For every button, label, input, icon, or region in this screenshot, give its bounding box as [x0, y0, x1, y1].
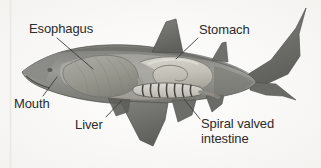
label-liver: Liver	[75, 117, 103, 132]
label-spiral-valved-intestine-line1: Spiral valved	[201, 116, 274, 131]
leader-line-liver	[106, 100, 122, 117]
leader-line-mouth	[43, 77, 57, 96]
label-mouth: Mouth	[14, 96, 50, 111]
leader-line-spiral-valved-intestine	[184, 99, 200, 119]
leader-line-esophagus	[57, 38, 93, 69]
label-esophagus: Esophagus	[29, 21, 93, 36]
label-spiral-valved-intestine: Spiral valvedintestine	[201, 116, 274, 146]
label-spiral-valved-intestine-line2: intestine	[201, 131, 274, 146]
leader-line-stomach	[176, 38, 198, 59]
label-stomach: Stomach	[199, 22, 250, 37]
shark-anatomy-figure: Esophagus Mouth Liver Stomach Spiral val…	[0, 0, 321, 168]
